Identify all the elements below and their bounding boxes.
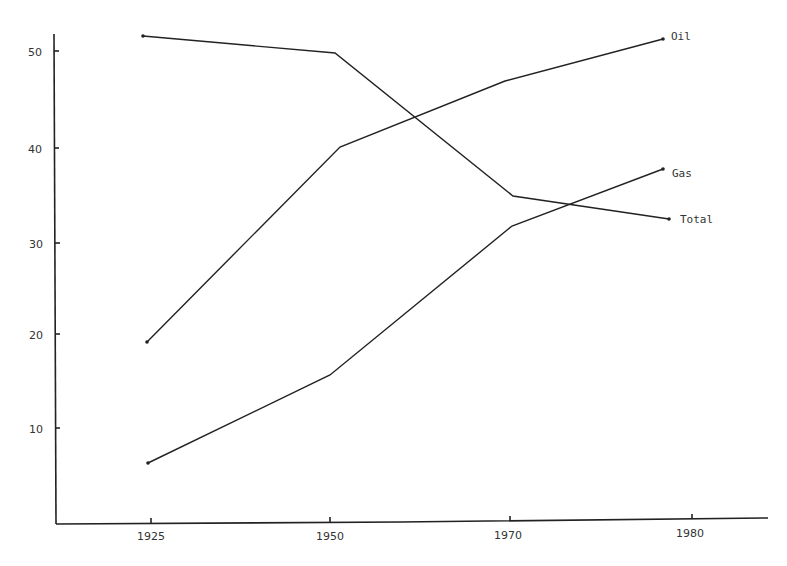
oil-label: Oil: [671, 30, 691, 43]
x-tick-label: 1925: [137, 530, 165, 543]
series-total: [141, 34, 671, 221]
oil-line: [147, 39, 663, 342]
series-oil: [145, 37, 665, 344]
data-point: [145, 340, 149, 344]
total-line: [143, 36, 669, 219]
x-tick-label: 1950: [316, 530, 344, 543]
series-gas: [146, 167, 665, 465]
y-axis: [54, 34, 56, 524]
y-tick-label: 30: [29, 238, 43, 251]
y-tick-labels: 50 40 30 20 10: [28, 46, 43, 436]
y-tick-label: 10: [29, 423, 43, 436]
data-point: [141, 34, 145, 38]
x-tick-label: 1980: [676, 527, 704, 540]
y-tick-label: 20: [29, 329, 43, 342]
total-label: Total: [680, 213, 713, 226]
data-point: [667, 217, 671, 221]
axes: [54, 34, 768, 524]
x-axis: [56, 518, 768, 524]
gas-line: [148, 169, 663, 463]
x-tick-label: 1970: [494, 529, 522, 542]
line-chart: 50 40 30 20 10 1925 1950 1970 1980 Oil G…: [0, 0, 787, 566]
y-tick-label: 50: [28, 46, 42, 59]
data-point: [661, 37, 665, 41]
data-point: [146, 461, 150, 465]
data-point: [661, 167, 665, 171]
y-tick-label: 40: [28, 143, 42, 156]
gas-label: Gas: [672, 167, 692, 180]
x-tick-labels: 1925 1950 1970 1980: [137, 527, 704, 543]
series-labels: Oil Gas Total: [671, 30, 713, 226]
